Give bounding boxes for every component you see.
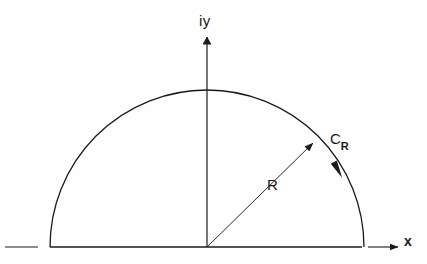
radius-arrow xyxy=(207,143,313,247)
contour-diagram-figure: iy x R CR xyxy=(0,0,427,264)
contour-label-subscript: R xyxy=(341,140,349,152)
real-axis-label: x xyxy=(404,234,412,248)
contour-label: CR xyxy=(330,131,349,150)
contour-label-base: C xyxy=(330,130,341,147)
arc-direction-arrow xyxy=(331,160,345,179)
radius-label: R xyxy=(267,177,278,192)
imaginary-axis-label: iy xyxy=(199,13,211,28)
contour-diagram-canvas xyxy=(0,0,427,264)
